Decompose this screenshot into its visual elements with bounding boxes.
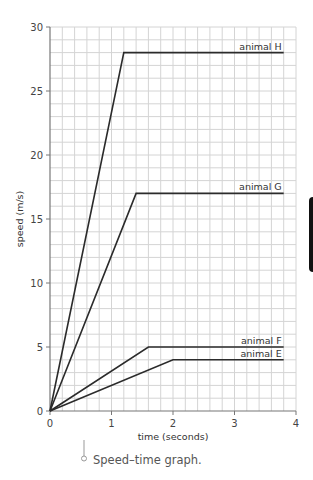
y-tick-label: 0: [37, 406, 43, 417]
speed-time-chart: 05101520253001234 animal Hanimal Ganimal…: [0, 0, 313, 480]
y-tick-label: 20: [30, 150, 43, 161]
figure-caption: Speed–time graph.: [93, 453, 202, 467]
pin-marker-icon: [80, 440, 88, 462]
y-tick-label: 25: [30, 86, 43, 97]
x-tick-label: 1: [108, 418, 114, 429]
side-tab-marker[interactable]: [309, 197, 313, 272]
x-axis-title: time (seconds): [138, 431, 209, 442]
series-line-animal-g: [50, 193, 284, 411]
y-tick-label: 10: [30, 278, 43, 289]
x-tick-label: 3: [231, 418, 237, 429]
y-tick-label: 5: [37, 342, 43, 353]
series-label: animal E: [240, 348, 281, 359]
series-label: animal H: [239, 41, 281, 52]
x-tick-label: 2: [170, 418, 176, 429]
y-axis-title: speed (m/s): [14, 191, 25, 248]
series-label: animal G: [239, 181, 282, 192]
y-tick-label: 15: [30, 214, 43, 225]
series-labels: animal Hanimal Ganimal Fanimal E: [239, 41, 282, 359]
series-label: animal F: [241, 335, 282, 346]
x-tick-label: 0: [47, 418, 53, 429]
y-tick-label: 30: [30, 22, 43, 33]
x-tick-label: 4: [293, 418, 299, 429]
